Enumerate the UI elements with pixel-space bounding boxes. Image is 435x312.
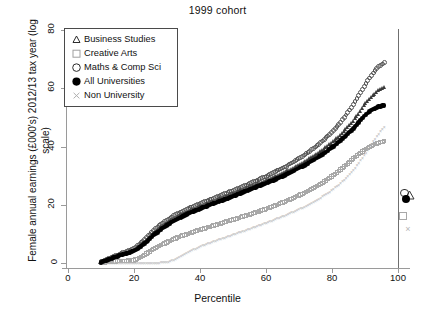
- y-tick-label: 20: [0, 198, 56, 209]
- y-tick-label: 40: [0, 140, 56, 151]
- x-tick-label: 100: [383, 272, 413, 283]
- legend-label: Non University: [84, 89, 144, 102]
- y-tick: [61, 263, 66, 264]
- x-tick-label: 60: [251, 272, 281, 283]
- x-tick-label: 80: [317, 272, 347, 283]
- x-tick-label: 20: [119, 272, 149, 283]
- legend-item-creative-arts: Creative Arts: [69, 46, 174, 60]
- open-circle-icon: [69, 61, 84, 74]
- y-tick-label: 60: [0, 81, 56, 92]
- legend-label: Business Studies: [84, 33, 155, 46]
- filled-circle-icon: [69, 75, 84, 88]
- data-point: [402, 195, 410, 203]
- legend-item-business-studies: Business Studies: [69, 32, 174, 46]
- cross-icon: [69, 89, 84, 102]
- legend-label: All Universities: [84, 75, 145, 88]
- data-point: [382, 60, 387, 65]
- data-point: ×: [382, 125, 387, 130]
- chart-legend: Business Studies Creative Arts Maths & C…: [64, 28, 178, 107]
- data-point: [382, 139, 386, 143]
- reference-line-100: [398, 29, 399, 268]
- legend-item-non-university: Non University: [69, 89, 174, 103]
- y-tick: [61, 205, 66, 206]
- triangle-icon: [69, 33, 84, 46]
- data-point: [382, 103, 387, 108]
- data-point: ×: [404, 225, 413, 234]
- legend-item-maths-comp-sci: Maths & Comp Sci: [69, 60, 174, 74]
- x-axis-label: Percentile: [0, 292, 435, 304]
- x-tick-label: 0: [53, 272, 83, 283]
- y-tick: [61, 147, 66, 148]
- y-tick-label: 80: [0, 23, 56, 34]
- x-tick-label: 40: [185, 272, 215, 283]
- chart-figure: 1999 cohort Female annual earnings (£000…: [0, 0, 435, 312]
- y-tick-label: 0: [0, 256, 56, 267]
- data-point: [399, 212, 407, 220]
- legend-label: Maths & Comp Sci: [84, 61, 161, 74]
- legend-item-all-universities: All Universities: [69, 75, 174, 89]
- data-point: [382, 85, 386, 89]
- legend-label: Creative Arts: [84, 47, 137, 60]
- square-icon: [69, 47, 84, 60]
- chart-title: 1999 cohort: [0, 4, 435, 16]
- x-axis-line: [62, 268, 410, 269]
